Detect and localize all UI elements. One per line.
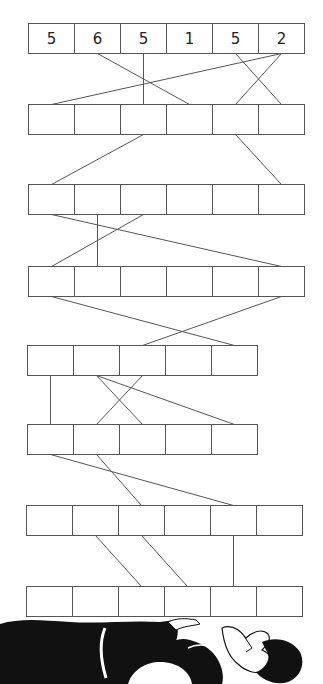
- puzzle-diagram: 5 6 5 1 5 2: [0, 0, 323, 684]
- cell[interactable]: [166, 104, 213, 135]
- cell[interactable]: [212, 184, 259, 215]
- connection-line: [52, 54, 282, 105]
- cell[interactable]: [28, 184, 75, 215]
- connection-line: [52, 297, 235, 346]
- cell[interactable]: [74, 184, 121, 215]
- connection-line: [52, 215, 282, 267]
- cell[interactable]: [165, 424, 212, 455]
- connection-line: [97, 376, 235, 425]
- row-6: [27, 424, 258, 455]
- cell[interactable]: [256, 505, 303, 536]
- cell[interactable]: [212, 104, 259, 135]
- cell[interactable]: [212, 266, 259, 297]
- connection-line: [142, 536, 188, 587]
- cell[interactable]: [74, 104, 121, 135]
- person-illustration: [0, 618, 323, 684]
- cell[interactable]: [164, 505, 211, 536]
- cell[interactable]: [118, 505, 165, 536]
- cell: 2: [258, 23, 305, 54]
- cell[interactable]: [72, 586, 119, 617]
- cell[interactable]: [119, 424, 166, 455]
- cell[interactable]: [166, 184, 213, 215]
- cell: 5: [120, 23, 167, 54]
- connection-lines: [0, 0, 323, 684]
- cell[interactable]: [72, 505, 119, 536]
- cell: 1: [166, 23, 213, 54]
- cell[interactable]: [73, 345, 120, 376]
- row-1: 5 6 5 1 5 2: [28, 23, 305, 54]
- cell[interactable]: [26, 505, 73, 536]
- connection-line: [52, 135, 144, 185]
- connection-line: [236, 135, 282, 185]
- cell[interactable]: [26, 586, 73, 617]
- row-4: [28, 266, 305, 297]
- cell[interactable]: [210, 505, 257, 536]
- cell[interactable]: [211, 424, 258, 455]
- row-2: [28, 104, 305, 135]
- cell[interactable]: [258, 266, 305, 297]
- cell[interactable]: [118, 586, 165, 617]
- cell[interactable]: [27, 345, 74, 376]
- cell: 6: [74, 23, 121, 54]
- cell[interactable]: [119, 345, 166, 376]
- cell[interactable]: [73, 424, 120, 455]
- row-7: [26, 505, 303, 536]
- connection-line: [97, 455, 142, 506]
- cell[interactable]: [27, 424, 74, 455]
- cell[interactable]: [166, 266, 213, 297]
- cell[interactable]: [211, 345, 258, 376]
- cell[interactable]: [28, 266, 75, 297]
- cell[interactable]: [120, 266, 167, 297]
- connection-line: [96, 536, 142, 587]
- cell[interactable]: [28, 104, 75, 135]
- cell[interactable]: [256, 586, 303, 617]
- cell: 5: [28, 23, 75, 54]
- cell[interactable]: [164, 586, 211, 617]
- cell[interactable]: [258, 184, 305, 215]
- connection-line: [51, 455, 234, 506]
- cell[interactable]: [165, 345, 212, 376]
- cell[interactable]: [120, 104, 167, 135]
- cell[interactable]: [74, 266, 121, 297]
- row-5: [27, 345, 258, 376]
- row-8: [26, 586, 303, 617]
- cell[interactable]: [120, 184, 167, 215]
- connection-line: [143, 297, 282, 346]
- cell[interactable]: [210, 586, 257, 617]
- row-3: [28, 184, 305, 215]
- cell: 5: [212, 23, 259, 54]
- cell[interactable]: [258, 104, 305, 135]
